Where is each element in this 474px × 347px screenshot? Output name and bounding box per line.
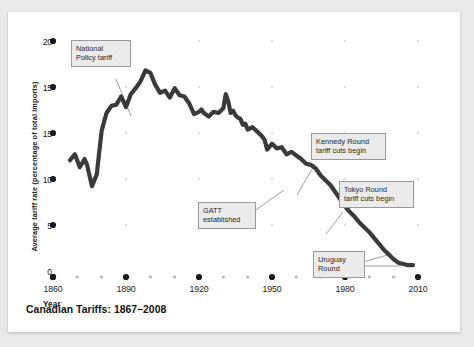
annotation-leader-lines (116, 79, 400, 266)
annotation-tokyo-round[interactable]: Tokyo Round tariff cuts begin (339, 181, 414, 208)
screenshot-root: Average tariff rate (percentage of total… (0, 0, 474, 347)
leader-kennedy-round (297, 164, 315, 195)
leader-tokyo-round (326, 212, 343, 234)
annotation-kennedy-round[interactable]: Kennedy Round tariff cuts begin (311, 133, 386, 160)
tariff-rate-line (70, 71, 413, 266)
y-major-tick-dots (50, 38, 56, 280)
chart-card: Average tariff rate (percentage of total… (8, 12, 460, 332)
annotation-gatt[interactable]: GATT established (198, 202, 256, 229)
leader-gatt (253, 190, 284, 212)
annotation-uruguay-round[interactable]: Uruguay Round (313, 251, 365, 278)
annotation-national-policy[interactable]: National Policy tariff (71, 40, 131, 67)
chart-caption-title: Canadian Tariffs: 1867–2008 (26, 304, 166, 315)
chart-plot-area: Average tariff rate (percentage of total… (8, 12, 460, 332)
x-major-tick-dots (50, 274, 421, 280)
